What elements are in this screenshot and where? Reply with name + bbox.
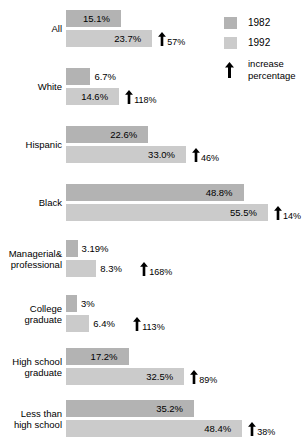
up-arrow-icon <box>190 370 198 388</box>
category-label: Managerial&professional <box>0 248 62 270</box>
up-arrow-icon <box>225 62 234 82</box>
up-arrow-icon <box>248 422 256 440</box>
legend-label-increase-line2: percentage <box>248 70 296 81</box>
category-label-line1: Hispanic <box>0 139 62 150</box>
category-label-line1: White <box>0 81 62 92</box>
legend-item-increase: increase percentage <box>224 60 304 90</box>
increase-value: 168% <box>149 267 172 277</box>
bar-1982[interactable] <box>66 295 77 312</box>
legend-swatch-1982-icon <box>224 17 237 29</box>
bar-row-1992: 55.5%14% <box>66 204 304 221</box>
bar-row-1992: 32.5%89% <box>66 368 304 385</box>
bar-value-1992: 8.3% <box>100 262 122 275</box>
legend-swatch-1992-icon <box>224 37 237 49</box>
legend-item-1992: 1992 <box>224 34 304 54</box>
increase-annotation: 168% <box>140 262 172 280</box>
bar-value-1982: 3.19% <box>82 242 109 255</box>
bar-row-1992: 14.6%118% <box>66 88 304 105</box>
bar-value-1982: 22.6% <box>110 128 137 141</box>
increase-annotation: 89% <box>190 370 217 388</box>
bar-row-1992: 33.0%46% <box>66 146 304 163</box>
up-arrow-icon <box>274 206 282 224</box>
bar-value-1982: 48.8% <box>206 186 233 199</box>
bar-value-1992: 14.6% <box>81 90 108 103</box>
bar-value-1982: 35.2% <box>156 402 183 415</box>
legend-label-1982: 1982 <box>248 14 270 32</box>
bar-row-1982: 3.19% <box>66 240 304 257</box>
category-label-line2: professional <box>0 259 62 270</box>
category-label: Black <box>0 197 62 208</box>
increase-annotation: 14% <box>274 206 301 224</box>
bar-1992[interactable] <box>66 260 96 277</box>
category-label-line1: Less than <box>0 408 62 419</box>
bar-group: Less thanhigh school35.2%48.4%38% <box>0 400 304 437</box>
category-label: Hispanic <box>0 139 62 150</box>
category-label: Less thanhigh school <box>0 408 62 430</box>
legend-item-1982: 1982 <box>224 14 304 34</box>
up-arrow-icon <box>158 32 166 50</box>
up-arrow-icon <box>133 317 141 335</box>
increase-value: 118% <box>134 95 156 105</box>
bar-group: High schoolgraduate17.2%32.5%89% <box>0 348 304 385</box>
bar-value-1992: 6.4% <box>93 317 115 330</box>
bar-value-1992: 23.7% <box>114 32 141 45</box>
bar-row-1982: 3% <box>66 295 304 312</box>
bar-row-1992: 8.3%168% <box>66 260 304 277</box>
category-label-line1: High school <box>0 356 62 367</box>
increase-annotation: 46% <box>192 148 219 166</box>
bar-value-1992: 55.5% <box>230 206 257 219</box>
bar-row-1992: 48.4%38% <box>66 420 304 437</box>
category-label: High schoolgraduate <box>0 356 62 378</box>
bar-group: Collegegraduate3%6.4%113% <box>0 295 304 332</box>
category-label-line2: graduate <box>0 314 62 325</box>
legend-label-1992: 1992 <box>248 34 270 52</box>
increase-value: 14% <box>283 211 301 221</box>
legend-label-increase: increase percentage <box>248 58 306 82</box>
bar-value-1992: 33.0% <box>148 148 175 161</box>
increase-annotation: 113% <box>133 317 164 335</box>
category-label-line1: All <box>0 23 62 34</box>
increase-annotation: 118% <box>125 90 156 108</box>
bar-value-1982: 17.2% <box>91 350 118 363</box>
chart-legend: 1982 1992 increase percentage <box>224 14 304 90</box>
bar-value-1992: 32.5% <box>146 370 173 383</box>
category-label: Collegegraduate <box>0 303 62 325</box>
bar-1982[interactable] <box>66 240 78 257</box>
bar-row-1982: 35.2% <box>66 400 304 417</box>
bar-row-1982: 17.2% <box>66 348 304 365</box>
increase-value: 46% <box>201 153 219 163</box>
category-label-line1: Black <box>0 197 62 208</box>
bar-row-1992: 6.4%113% <box>66 315 304 332</box>
increase-annotation: 38% <box>248 422 275 440</box>
increase-value: 89% <box>199 375 217 385</box>
bar-group: Black48.8%55.5%14% <box>0 184 304 221</box>
legend-label-increase-line1: increase <box>248 58 284 69</box>
increase-value: 113% <box>142 322 164 332</box>
bar-value-1982: 6.7% <box>94 70 116 83</box>
increase-value: 38% <box>257 427 275 437</box>
bar-row-1982: 22.6% <box>66 126 304 143</box>
increase-annotation: 57% <box>158 32 185 50</box>
up-arrow-icon <box>192 148 200 166</box>
category-label-line1: College <box>0 303 62 314</box>
category-label-line1: Managerial& <box>0 248 62 259</box>
bar-1982[interactable] <box>66 68 90 85</box>
category-label-line2: graduate <box>0 367 62 378</box>
bar-group: Managerial&professional3.19%8.3%168% <box>0 240 304 277</box>
category-label: All <box>0 23 62 34</box>
bar-value-1992: 48.4% <box>204 422 231 435</box>
category-label: White <box>0 81 62 92</box>
bar-value-1982: 15.1% <box>83 12 110 25</box>
bar-value-1982: 3% <box>81 297 95 310</box>
up-arrow-icon <box>125 90 133 108</box>
bar-row-1982: 48.8% <box>66 184 304 201</box>
bar-group: Hispanic22.6%33.0%46% <box>0 126 304 163</box>
increase-value: 57% <box>167 37 185 47</box>
up-arrow-icon <box>140 262 148 280</box>
category-label-line2: high school <box>0 419 62 430</box>
bar-1992[interactable] <box>66 315 89 332</box>
